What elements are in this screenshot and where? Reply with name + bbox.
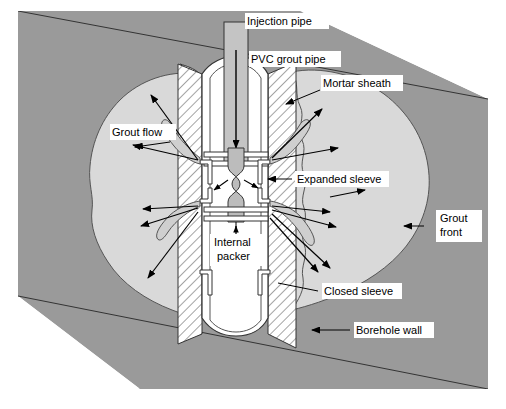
label-expanded-sleeve: Expanded sleeve [295,171,389,187]
label-borehole-wall-text: Borehole wall [356,324,422,336]
label-mortar-sheath-text: Mortar sheath [323,77,391,89]
label-pvc-grout-pipe-text: PVC grout pipe [251,53,326,65]
label-mortar-sheath: Mortar sheath [321,75,403,91]
label-internal-packer-line1: Internal [214,236,251,248]
grouting-cross-section-svg: Injection pipe PVC grout pipe Mortar she… [0,0,506,409]
label-grout-flow-text: Grout flow [112,126,162,138]
label-internal-packer: Internal packer [210,234,264,266]
label-grout-front: Grout front [436,210,482,242]
label-closed-sleeve: Closed sleeve [322,283,402,299]
label-closed-sleeve-text: Closed sleeve [324,285,393,297]
diagram-figure: Injection pipe PVC grout pipe Mortar she… [0,0,506,409]
label-grout-front-line1: Grout [440,212,468,224]
label-borehole-wall: Borehole wall [354,322,434,338]
label-injection-pipe-text: Injection pipe [247,15,312,27]
lower-sleeve-band-top [204,207,268,212]
label-grout-flow: Grout flow [110,124,176,140]
label-pvc-grout-pipe: PVC grout pipe [249,51,341,67]
label-expanded-sleeve-text: Expanded sleeve [297,173,381,185]
label-internal-packer-line2: packer [217,250,250,262]
label-injection-pipe: Injection pipe [245,13,329,29]
lower-sleeve-band-bottom [204,216,268,221]
label-grout-front-line2: front [440,226,462,238]
